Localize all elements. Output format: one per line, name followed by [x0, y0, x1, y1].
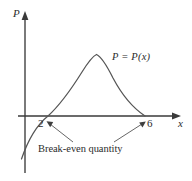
x-axis-label: x: [178, 118, 183, 129]
break-even-caption: Break-even quantity: [38, 144, 122, 155]
leader-line-right: [114, 124, 142, 142]
x-intercept-label-left: 2: [38, 118, 44, 129]
curve-equation-label: P = P(x): [112, 52, 150, 63]
leader-arrowhead-right: [139, 122, 146, 128]
x-intercept-label-right: 6: [147, 118, 153, 129]
leader-arrowhead-left: [47, 121, 54, 127]
leader-line-left: [50, 124, 73, 142]
y-axis-label: P: [13, 8, 20, 19]
profit-function-figure: P x P = P(x) 2 6 Break-even quantity: [0, 0, 192, 181]
y-axis-arrowhead: [22, 11, 29, 20]
